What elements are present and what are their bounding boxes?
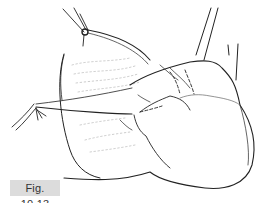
figure-label: Fig. 10.13 [10,180,60,196]
forceps-top-left-icon [63,8,88,46]
surgical-illustration [0,0,264,203]
instrument-top-right-icon [196,8,238,80]
